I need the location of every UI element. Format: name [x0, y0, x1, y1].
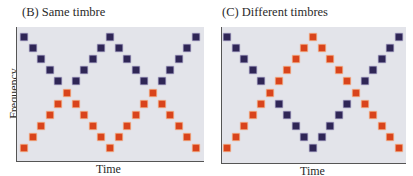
panel-b-plot — [16, 27, 204, 162]
blue-tone-square — [193, 34, 199, 40]
blue-tone-square — [284, 112, 290, 118]
orange-tone-square — [141, 101, 147, 107]
orange-tone-square — [267, 90, 273, 96]
blue-tone-square — [73, 78, 79, 84]
blue-tone-square — [47, 67, 53, 73]
orange-tone-square — [276, 78, 282, 84]
blue-tone-square — [141, 78, 147, 84]
orange-tone-square — [284, 67, 290, 73]
orange-tone-square — [233, 134, 239, 140]
blue-tone-square — [293, 123, 299, 129]
blue-tone-square — [301, 134, 307, 140]
blue-tone-square — [379, 56, 385, 62]
orange-tone-square — [327, 56, 333, 62]
panel-b-x-axis-label: Time — [96, 162, 121, 176]
blue-tone-square — [176, 56, 182, 62]
orange-tone-square — [176, 123, 182, 129]
blue-tone-square — [344, 101, 350, 107]
blue-tone-square — [387, 45, 393, 51]
orange-tone-square — [107, 145, 113, 151]
orange-tone-square — [159, 101, 165, 107]
blue-tone-square — [241, 56, 247, 62]
orange-tone-square — [47, 112, 53, 118]
orange-tone-square — [55, 101, 61, 107]
orange-tone-square — [379, 123, 385, 129]
orange-tone-square — [167, 112, 173, 118]
blue-tone-square — [362, 78, 368, 84]
panel-c-title: (C) Different timbres — [222, 5, 328, 20]
blue-tone-square — [319, 134, 325, 140]
orange-tone-square — [301, 45, 307, 51]
blue-tone-square — [310, 145, 316, 151]
orange-tone-square — [133, 112, 139, 118]
orange-tone-square — [258, 101, 264, 107]
orange-tone-square — [362, 101, 368, 107]
orange-tone-square — [38, 123, 44, 129]
blue-tone-square — [107, 34, 113, 40]
orange-tone-square — [241, 123, 247, 129]
orange-tone-square — [319, 45, 325, 51]
orange-tone-square — [30, 134, 36, 140]
blue-tone-square — [250, 67, 256, 73]
orange-tone-square — [21, 145, 27, 151]
blue-tone-square — [184, 45, 190, 51]
blue-tone-square — [81, 67, 87, 73]
orange-tone-square — [124, 123, 130, 129]
orange-tone-square — [353, 90, 359, 96]
blue-tone-square — [124, 56, 130, 62]
orange-tone-square — [184, 134, 190, 140]
orange-tone-square — [81, 112, 87, 118]
orange-tone-square — [387, 134, 393, 140]
panel-c-x-axis-label: Time — [300, 164, 325, 176]
orange-tone-square — [90, 123, 96, 129]
blue-tone-square — [159, 78, 165, 84]
blue-tone-square — [30, 45, 36, 51]
panel-c-plot — [221, 27, 406, 164]
blue-tone-square — [90, 56, 96, 62]
blue-tone-square — [133, 67, 139, 73]
blue-tone-square — [38, 56, 44, 62]
orange-tone-square — [73, 101, 79, 107]
blue-tone-square — [21, 34, 27, 40]
blue-tone-square — [396, 34, 402, 40]
orange-tone-square — [64, 90, 70, 96]
blue-tone-square — [167, 67, 173, 73]
orange-tone-square — [370, 112, 376, 118]
blue-tone-square — [224, 34, 230, 40]
orange-tone-square — [98, 134, 104, 140]
blue-tone-square — [258, 78, 264, 84]
orange-tone-square — [293, 56, 299, 62]
orange-tone-square — [396, 145, 402, 151]
blue-tone-square — [327, 123, 333, 129]
orange-tone-square — [193, 145, 199, 151]
blue-tone-square — [276, 101, 282, 107]
orange-tone-square — [250, 112, 256, 118]
blue-tone-square — [233, 45, 239, 51]
blue-tone-square — [55, 78, 61, 84]
orange-tone-square — [150, 90, 156, 96]
blue-tone-square — [370, 67, 376, 73]
orange-tone-square — [310, 34, 316, 40]
blue-tone-square — [98, 45, 104, 51]
blue-tone-square — [116, 45, 122, 51]
orange-tone-square — [336, 67, 342, 73]
orange-tone-square — [224, 145, 230, 151]
panel-b-title: (B) Same timbre — [22, 5, 105, 20]
blue-tone-square — [336, 112, 342, 118]
orange-tone-square — [344, 78, 350, 84]
orange-tone-square — [116, 134, 122, 140]
